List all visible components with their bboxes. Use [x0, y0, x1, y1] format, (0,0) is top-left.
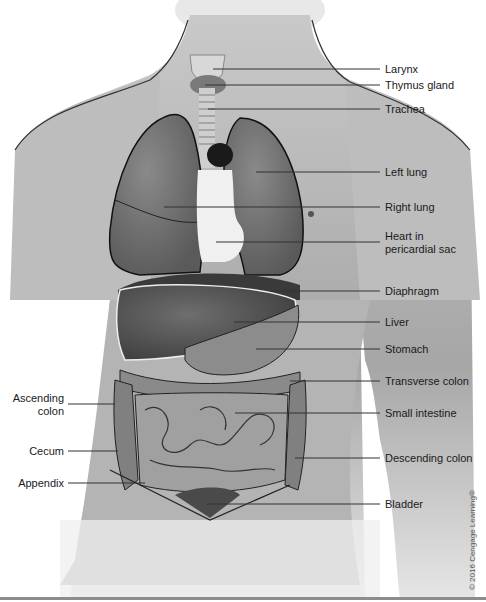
label-heart: Heart in pericardial sac: [385, 230, 456, 256]
label-heart-line1: Heart in: [385, 230, 456, 243]
aortic-arch: [207, 143, 233, 167]
label-trachea: Trachea: [385, 103, 425, 116]
nipple: [308, 211, 314, 217]
label-descending-colon: Descending colon: [385, 452, 472, 465]
label-diaphragm: Diaphragm: [385, 285, 439, 298]
label-transverse-colon: Transverse colon: [385, 375, 469, 388]
lower-fade: [60, 520, 380, 600]
label-ascending-colon: Ascending colon: [13, 392, 64, 418]
anatomy-diagram: Larynx Thymus gland Trachea Left lung Ri…: [0, 0, 486, 602]
label-bladder: Bladder: [385, 498, 423, 511]
copyright-notice: © 2016 Cengage Learning®: [468, 490, 477, 590]
label-heart-line2: pericardial sac: [385, 243, 456, 256]
label-larynx: Larynx: [385, 63, 418, 76]
label-stomach: Stomach: [385, 343, 428, 356]
label-ascending-colon-line1: Ascending: [13, 392, 64, 405]
label-thymus-gland: Thymus gland: [385, 79, 454, 92]
bottom-divider: [0, 597, 486, 600]
label-right-lung: Right lung: [385, 201, 435, 214]
label-liver: Liver: [385, 316, 409, 329]
label-left-lung: Left lung: [385, 166, 427, 179]
label-cecum: Cecum: [29, 445, 64, 458]
label-appendix: Appendix: [18, 477, 64, 490]
label-small-intestine: Small intestine: [385, 407, 457, 420]
label-ascending-colon-line2: colon: [13, 405, 64, 418]
